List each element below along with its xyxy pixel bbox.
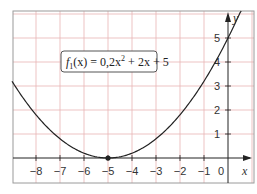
y-tick-label: 5	[214, 32, 220, 44]
function-body: (x) = 0,2x	[73, 55, 121, 69]
y-axis-arrow-icon	[225, 12, 231, 22]
x-tick-label: −6	[78, 165, 91, 177]
parabola-curve	[12, 11, 241, 158]
x-axis-arrow-icon	[243, 155, 252, 161]
x-tick-label: −5	[102, 165, 115, 177]
function-graph: −8−7−6−5−4−3−2−1012345 f1(x) = 0,2x2 + 2…	[0, 0, 257, 194]
y-axis-label: y	[232, 11, 239, 25]
x-tick-label: −7	[54, 165, 67, 177]
function-tail: + 2x + 5	[125, 55, 169, 69]
x-tick-label: −1	[198, 165, 211, 177]
x-tick-label: −2	[174, 165, 187, 177]
function-label: f1(x) = 0,2x2 + 2x + 5	[61, 51, 169, 72]
x-tick-label: −3	[150, 165, 163, 177]
y-tick-label: 3	[214, 80, 220, 92]
y-tick-label: 2	[214, 104, 220, 116]
y-tick-label: 1	[214, 128, 220, 140]
x-tick-label: 0	[218, 165, 224, 177]
x-tick-label: −8	[30, 165, 43, 177]
x-tick-label: −4	[126, 165, 139, 177]
vertex-point	[105, 155, 110, 160]
function-label-text: f1(x) = 0,2x2 + 2x + 5	[66, 54, 169, 71]
x-axis-label: x	[241, 164, 248, 178]
